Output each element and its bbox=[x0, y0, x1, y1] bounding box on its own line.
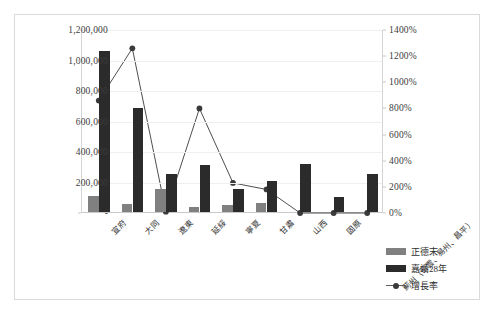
growth-rate-data-point bbox=[197, 106, 203, 112]
bar-jiajing28 bbox=[267, 181, 278, 212]
x-axis-tick-label: 延綏 bbox=[209, 217, 228, 236]
legend-label-zhengde: 正德末 bbox=[411, 245, 438, 258]
legend-label-jiajing28: 嘉靖28年 bbox=[411, 262, 447, 275]
bar-jiajing28 bbox=[233, 189, 244, 212]
x-axis-tick-label: 山西 bbox=[310, 217, 329, 236]
y-axis-left-tick-mark bbox=[78, 60, 81, 61]
growth-rate-data-point bbox=[129, 45, 135, 51]
y-axis-right-tick-label: 200% bbox=[389, 182, 412, 192]
y-axis-left-tick-mark bbox=[78, 152, 81, 153]
legend-swatch-icon-jiajing28 bbox=[386, 265, 406, 272]
legend-item-jiajing28[interactable]: 嘉靖28年 bbox=[386, 260, 447, 277]
y-axis-right-tick-mark bbox=[383, 160, 386, 161]
y-axis-left-tick-label: - bbox=[105, 208, 108, 218]
y-axis-left-tick-mark bbox=[78, 91, 81, 92]
y-axis-right-tick-label: 1000% bbox=[389, 77, 417, 87]
gridline bbox=[82, 30, 382, 31]
y-axis-right-tick-mark bbox=[383, 30, 386, 31]
bar-zhengde bbox=[88, 196, 99, 212]
x-axis-tick-label: 大同 bbox=[142, 217, 161, 236]
legend-label-growth-rate: 增長率 bbox=[411, 279, 438, 292]
y-axis-left-tick-mark bbox=[78, 213, 81, 214]
y-axis-left-tick-mark bbox=[78, 121, 81, 122]
bar-jiajing28 bbox=[367, 174, 378, 212]
bar-jiajing28 bbox=[166, 174, 177, 212]
y-axis-left-tick-label: 1,000,000 bbox=[68, 56, 108, 66]
y-axis-right-tick-mark bbox=[383, 186, 386, 187]
y-axis-right-tick-label: 400% bbox=[389, 156, 412, 166]
bar-jiajing28 bbox=[300, 164, 311, 212]
y-axis-right-tick-mark bbox=[383, 82, 386, 83]
x-axis-tick-label: 寧夏 bbox=[243, 217, 262, 236]
y-axis-right-tick-label: 1200% bbox=[389, 51, 417, 61]
y-axis-right-tick-label: 600% bbox=[389, 130, 412, 140]
y-axis-right-tick-label: 800% bbox=[389, 103, 412, 113]
y-axis-right-tick-mark bbox=[383, 108, 386, 109]
legend-line-marker-icon-growth-rate bbox=[386, 282, 406, 289]
chart-legend: 正德末 嘉靖28年 增長率 bbox=[386, 243, 447, 294]
bar-zhengde bbox=[256, 203, 267, 212]
legend-item-growth-rate[interactable]: 增長率 bbox=[386, 277, 447, 294]
x-axis-tick-label: 甘肅 bbox=[276, 217, 295, 236]
bar-jiajing28 bbox=[334, 197, 345, 212]
y-axis-right-tick-mark bbox=[383, 134, 386, 135]
x-axis-tick-label: 宣府 bbox=[108, 217, 127, 236]
bar-jiajing28 bbox=[133, 108, 144, 212]
gridline bbox=[82, 122, 382, 123]
x-axis-tick-label: 固原 bbox=[343, 217, 362, 236]
gridline bbox=[82, 91, 382, 92]
y-axis-left-tick-label: 1,200,000 bbox=[68, 25, 108, 35]
bar-zhengde bbox=[122, 204, 133, 212]
bar-jiajing28 bbox=[200, 165, 211, 212]
y-axis-right-tick-label: 1400% bbox=[389, 25, 417, 35]
bar-zhengde bbox=[222, 205, 233, 212]
gridline bbox=[82, 183, 382, 184]
y-axis-left-tick-mark bbox=[78, 30, 81, 31]
y-axis-left-tick-mark bbox=[78, 182, 81, 183]
gridline bbox=[82, 152, 382, 153]
plot-area bbox=[81, 30, 383, 213]
bar-zhengde bbox=[189, 207, 200, 212]
y-axis-right-tick-label: 0% bbox=[389, 208, 402, 218]
legend-item-zhengde[interactable]: 正德末 bbox=[386, 243, 447, 260]
y-axis-right-tick-mark bbox=[383, 56, 386, 57]
gridline bbox=[82, 61, 382, 62]
y-axis-right-tick-mark bbox=[383, 213, 386, 214]
bar-jiajing28 bbox=[99, 51, 110, 212]
x-axis-tick-label: 遼東 bbox=[176, 217, 195, 236]
legend-swatch-icon-zhengde bbox=[386, 248, 406, 255]
bar-zhengde bbox=[155, 189, 166, 212]
